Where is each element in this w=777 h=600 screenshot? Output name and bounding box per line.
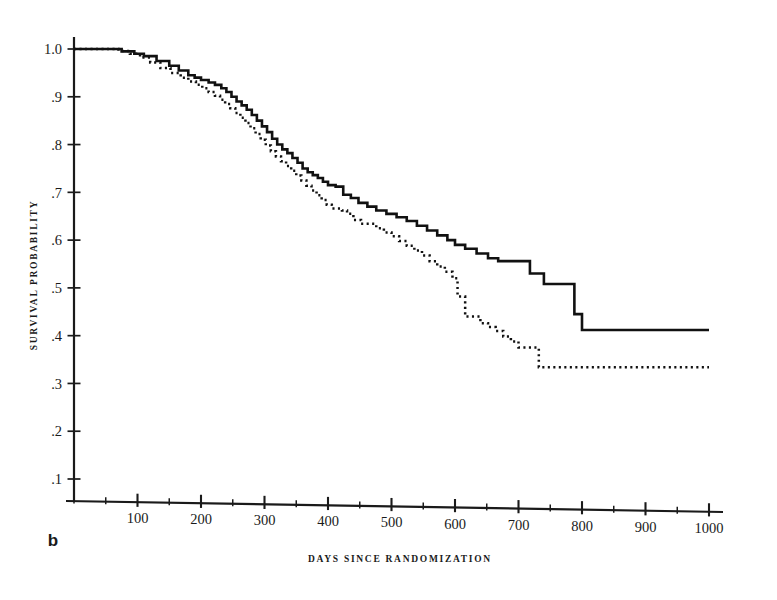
x-tick-label: 400 [317,513,339,529]
x-axis-line [66,501,723,512]
x-axis-title: DAYS SINCE RANDOMIZATION [308,554,492,564]
x-tick-label: 900 [635,519,657,535]
x-tick-label: 700 [508,517,530,533]
x-tick-label: 500 [381,514,403,530]
solid-curve [74,49,709,330]
panel-label: b [48,531,58,550]
x-tick-label: 1000 [695,520,724,536]
y-tick-label: .5 [51,280,62,296]
x-tick-label: 300 [254,512,276,528]
dotted-curve [74,49,709,367]
y-tick-label: .9 [51,89,62,105]
y-tick-labels: .1.2.3.4.5.6.7.8.91.0 [44,41,63,487]
y-tick-label: .2 [51,423,62,439]
x-tick-labels: 1002003004005006007008009001000 [127,510,724,536]
y-tick-label: .3 [51,376,62,392]
y-tick-label: .8 [51,137,62,153]
tick-marks [68,49,710,516]
figure-panel-b: .1.2.3.4.5.6.7.8.91.0 100200300400500600… [0,0,777,600]
y-tick-label: .4 [51,328,63,344]
data-curves [74,49,709,367]
y-axis-title: SURVIVAL PROBABILITY [29,200,39,350]
y-tick-label: .7 [51,185,62,201]
x-tick-label: 600 [444,516,466,532]
x-tick-label: 200 [190,511,212,527]
survival-curve-chart: .1.2.3.4.5.6.7.8.91.0 100200300400500600… [0,0,777,600]
y-tick-label: 1.0 [44,41,62,57]
x-tick-label: 800 [571,518,593,534]
x-tick-label: 100 [127,510,149,526]
y-tick-label: .6 [51,232,62,248]
axes [66,37,723,512]
y-tick-label: .1 [51,471,62,487]
